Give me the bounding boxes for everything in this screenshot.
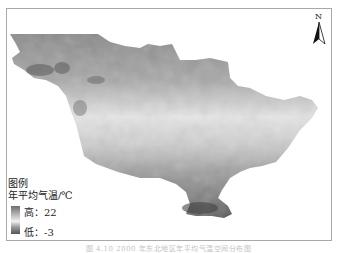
legend-color-ramp: [11, 206, 20, 234]
legend-high-label: 高：22: [24, 204, 57, 219]
legend-subtitle: 年平均气温/℃: [8, 190, 73, 202]
figure-caption: 图 4.10 2000 年东北地区年平均气温空间分布图: [0, 243, 337, 253]
north-arrow: N: [310, 12, 328, 46]
map-legend: 图例 年平均气温/℃ 高：22 低：-3: [8, 178, 73, 202]
legend-title: 图例: [8, 178, 73, 190]
legend-low-label: 低：-3: [24, 224, 54, 239]
north-arrow-icon: [310, 12, 328, 46]
